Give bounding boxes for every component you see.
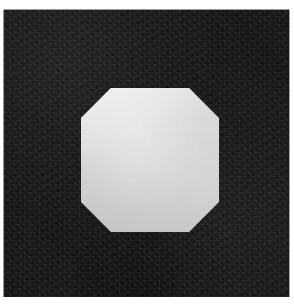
octagon-surface-shading [81, 88, 219, 232]
image-canvas: A dark near-black square card photograph… [0, 0, 294, 304]
shape-label: Octagon [0, 0, 1, 1]
image-caption: Light gray octagon on a black square bac… [0, 0, 1, 1]
octagon-shape [81, 88, 219, 232]
dark-square-panel [4, 10, 289, 297]
image-alt-text: A dark near-black square card photograph… [0, 0, 1, 1]
